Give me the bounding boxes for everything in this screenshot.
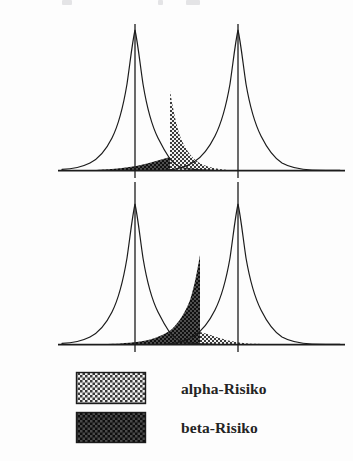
beta-risk-region-upper: [96, 157, 170, 170]
alpha-risk-region-lower: [200, 332, 262, 344]
legend: [77, 373, 146, 443]
hypothesis-test-risk-chart: [0, 0, 353, 461]
upper-panel: [58, 24, 345, 178]
null-hypothesis-curve-upper: [62, 30, 214, 170]
alternative-hypothesis-curve-upper: [166, 30, 340, 170]
legend-label-alpha: alpha-Risiko: [181, 381, 267, 397]
legend-swatch-beta: [77, 413, 146, 443]
risk-diagram-figure: alpha-Risiko beta-Risiko: [0, 0, 353, 461]
alpha-risk-region-upper: [170, 91, 300, 170]
legend-label-beta: beta-Risiko: [181, 420, 258, 436]
beta-risk-region-lower: [108, 255, 200, 344]
lower-panel: [58, 182, 345, 352]
legend-swatch-alpha: [77, 373, 146, 404]
